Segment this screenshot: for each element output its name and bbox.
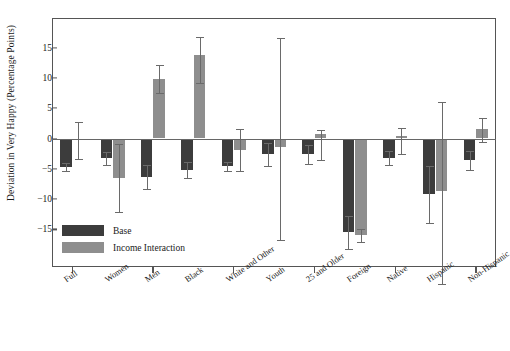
errorbar-base-7-cap [345, 216, 353, 217]
errorbar-base-1 [106, 152, 107, 165]
errorbar-base-2 [147, 165, 148, 190]
errorbar-base-10-cap [466, 151, 474, 152]
errorbar-income-6 [321, 130, 322, 160]
errorbar-base-6-cap [305, 164, 313, 165]
errorbar-base-0-cap [62, 163, 70, 164]
bar-income-7 [355, 139, 367, 236]
errorbar-base-9-cap [426, 166, 434, 167]
zero-line [52, 139, 496, 140]
errorbar-income-2-cap [156, 65, 164, 66]
errorbar-income-4-cap [236, 171, 244, 172]
errorbar-base-8 [389, 151, 390, 166]
errorbar-base-10-cap [466, 170, 474, 171]
errorbar-income-7 [361, 229, 362, 241]
errorbar-income-1-cap [115, 144, 123, 145]
errorbar-income-8-cap [398, 128, 406, 129]
errorbar-base-1-cap [103, 152, 111, 153]
errorbar-base-2-cap [143, 189, 151, 190]
errorbar-income-5-cap [277, 240, 285, 241]
errorbar-base-7-cap [345, 249, 353, 250]
errorbar-income-0-cap [75, 159, 83, 160]
errorbar-income-3-cap [196, 83, 204, 84]
errorbar-income-10-cap [479, 118, 487, 119]
errorbar-base-4-cap [224, 162, 232, 163]
errorbar-base-0 [66, 163, 67, 171]
errorbar-base-4 [227, 162, 228, 172]
x-tick-label-2: Men [143, 267, 162, 284]
errorbar-base-5 [268, 143, 269, 167]
errorbar-income-7-cap [357, 229, 365, 230]
y-tick-mark [52, 108, 57, 109]
errorbar-income-0-cap [75, 122, 83, 123]
errorbar-base-10 [470, 151, 471, 170]
errorbar-base-8-cap [385, 151, 393, 152]
y-tick-mark [52, 77, 57, 78]
errorbar-base-9-cap [426, 223, 434, 224]
errorbar-income-1 [119, 144, 120, 212]
errorbar-base-8-cap [385, 165, 393, 166]
errorbar-base-3-cap [184, 162, 192, 163]
legend-label-base: Base [113, 226, 131, 236]
errorbar-income-8 [401, 128, 402, 154]
errorbar-income-9-cap [438, 284, 446, 285]
errorbar-income-4 [240, 129, 241, 171]
errorbar-base-7 [348, 216, 349, 249]
x-tick-label-5: Youth [264, 264, 286, 284]
errorbar-income-9-cap [438, 102, 446, 103]
errorbar-base-2-cap [143, 165, 151, 166]
errorbar-income-7-cap [357, 242, 365, 243]
errorbar-base-3-cap [184, 178, 192, 179]
errorbar-income-10-cap [479, 142, 487, 143]
errorbar-base-4-cap [224, 171, 232, 172]
errorbar-income-2 [159, 65, 160, 93]
bar-chart: Deviation in Very Happy (Percentage Poin… [0, 0, 510, 351]
errorbar-base-5-cap [264, 166, 272, 167]
y-tick-mark [52, 47, 57, 48]
errorbar-income-3-cap [196, 37, 204, 38]
errorbar-income-3 [200, 37, 201, 83]
legend: Base Income Interaction [62, 224, 185, 258]
errorbar-income-8-cap [398, 154, 406, 155]
legend-swatch-base [62, 225, 104, 236]
errorbar-base-5-cap [264, 143, 272, 144]
x-tick-label-0: Full [62, 268, 79, 284]
errorbar-income-4-cap [236, 129, 244, 130]
y-tick-mark [52, 229, 57, 230]
errorbar-base-6 [308, 145, 309, 164]
errorbar-income-1-cap [115, 212, 123, 213]
errorbar-base-9 [429, 166, 430, 224]
legend-item-income-interaction: Income Interaction [62, 241, 185, 254]
errorbar-base-0-cap [62, 171, 70, 172]
legend-label-income-interaction: Income Interaction [113, 243, 185, 253]
x-tick-label-3: Black [183, 265, 205, 285]
y-tick-mark [52, 199, 57, 200]
legend-swatch-income-interaction [62, 242, 104, 253]
y-tick-mark [52, 168, 57, 169]
errorbar-income-5-cap [277, 38, 285, 39]
errorbar-income-9 [442, 102, 443, 284]
legend-item-base: Base [62, 224, 185, 237]
errorbar-income-0 [78, 122, 79, 160]
errorbar-base-1-cap [103, 165, 111, 166]
errorbar-income-6-cap [317, 130, 325, 131]
errorbar-income-6-cap [317, 160, 325, 161]
errorbar-base-3 [187, 162, 188, 179]
errorbar-base-6-cap [305, 145, 313, 146]
errorbar-income-2-cap [156, 93, 164, 94]
